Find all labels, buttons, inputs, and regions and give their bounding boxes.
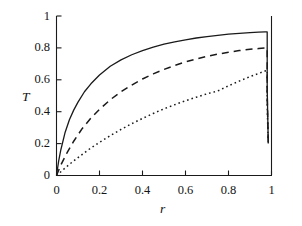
axes-spines (56, 16, 272, 176)
series-line-solid (57, 32, 269, 176)
x-axis-ticks (100, 171, 272, 176)
y-tick-label: 0.2 (8, 137, 50, 150)
x-tick-label: 0 (37, 184, 77, 197)
y-tick-label: 0.4 (8, 105, 50, 118)
x-tick-label: 0.2 (80, 184, 120, 197)
data-series-group (57, 32, 269, 176)
y-tick-label: 0 (8, 169, 50, 182)
series-line-dashed (57, 48, 269, 176)
y-tick-label: 1 (8, 10, 50, 23)
x-axis-title: r (160, 202, 165, 216)
y-tick-label: 0.6 (8, 73, 50, 86)
x-tick-label: 0.4 (123, 184, 163, 197)
x-tick-label: 1 (252, 184, 292, 197)
y-tick-label: 0.8 (8, 41, 50, 54)
x-tick-label: 0.8 (209, 184, 249, 197)
y-axis-title: T (22, 90, 30, 104)
x-tick-label: 0.6 (166, 184, 206, 197)
chart-figure: 00.20.40.60.81 00.20.40.60.81 T r (0, 0, 302, 226)
